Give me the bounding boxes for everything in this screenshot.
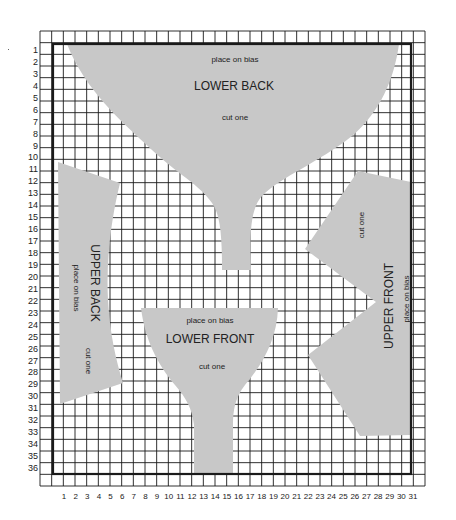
row-label: 15 — [22, 212, 38, 222]
column-label: 9 — [155, 492, 159, 501]
row-label: 19 — [22, 260, 38, 270]
row-label: 26 — [22, 344, 38, 354]
row-label: 7 — [22, 117, 38, 127]
column-label: 12 — [188, 492, 197, 501]
row-label: 9 — [22, 141, 38, 151]
column-label: 3 — [85, 492, 89, 501]
lower-back-title: LOWER BACK — [194, 79, 274, 93]
row-label: 36 — [22, 463, 38, 473]
column-label: 29 — [385, 492, 394, 501]
column-label: 20 — [281, 492, 290, 501]
row-label: 16 — [22, 224, 38, 234]
row-label: 24 — [22, 320, 38, 330]
column-label: 24 — [327, 492, 336, 501]
upper-back-cut-label: cut one — [84, 348, 93, 374]
row-label: 5 — [22, 93, 38, 103]
column-label: 28 — [374, 492, 383, 501]
upper-front-bias-label: place on bias — [402, 275, 411, 322]
column-label: 21 — [292, 492, 301, 501]
row-label: 32 — [22, 415, 38, 425]
column-label: 2 — [73, 492, 77, 501]
column-label: 19 — [269, 492, 278, 501]
row-label: 33 — [22, 427, 38, 437]
row-label: 4 — [22, 81, 38, 91]
row-label: 14 — [22, 200, 38, 210]
row-label: 35 — [22, 451, 38, 461]
column-label: 22 — [304, 492, 313, 501]
lower-front-cut-label: cut one — [199, 362, 225, 371]
row-label: 1 — [22, 45, 38, 55]
column-label: 18 — [257, 492, 266, 501]
row-label: 2 — [22, 57, 38, 67]
row-label: 6 — [22, 105, 38, 115]
row-label: 18 — [22, 248, 38, 258]
column-label: 26 — [350, 492, 359, 501]
row-label: 22 — [22, 296, 38, 306]
column-label: 11 — [176, 492, 184, 501]
lower-back-cut-label: cut one — [222, 113, 248, 122]
column-label: 4 — [97, 492, 101, 501]
column-label: 31 — [409, 492, 418, 501]
upper-back-title: UPPER BACK — [88, 244, 102, 321]
row-label: 21 — [22, 284, 38, 294]
upper-back-bias-label: place on bias — [72, 264, 81, 311]
column-label: 14 — [211, 492, 220, 501]
column-label: 7 — [132, 492, 136, 501]
column-label: 1 — [62, 492, 66, 501]
row-label: 13 — [22, 188, 38, 198]
row-label: 10 — [22, 152, 38, 162]
lower-front-bias-label: place on bias — [186, 316, 233, 325]
lower-back-bias-label: place on bias — [211, 55, 258, 64]
column-label: 23 — [315, 492, 324, 501]
column-label: 17 — [246, 492, 255, 501]
upper-front-title: UPPER FRONT — [382, 263, 396, 349]
row-label: 17 — [22, 236, 38, 246]
row-label: 29 — [22, 379, 38, 389]
pattern-grid-diagram — [0, 0, 456, 520]
upper-front-cut-label: cut one — [357, 212, 366, 238]
row-label: 25 — [22, 332, 38, 342]
row-label: 20 — [22, 272, 38, 282]
row-label: 23 — [22, 308, 38, 318]
column-label: 5 — [108, 492, 112, 501]
lower-front-title: LOWER FRONT — [166, 332, 255, 346]
row-label: 3 — [22, 69, 38, 79]
column-label: 27 — [362, 492, 371, 501]
row-label: 34 — [22, 439, 38, 449]
row-label: 27 — [22, 356, 38, 366]
column-label: 30 — [397, 492, 406, 501]
row-label: 31 — [22, 403, 38, 413]
column-label: 15 — [222, 492, 231, 501]
column-label: 13 — [199, 492, 208, 501]
row-label: 8 — [22, 129, 38, 139]
row-label: 12 — [22, 176, 38, 186]
row-label: 11 — [22, 164, 38, 174]
column-label: 16 — [234, 492, 243, 501]
column-label: 25 — [339, 492, 348, 501]
stray-mark — [8, 49, 9, 50]
column-label: 6 — [120, 492, 124, 501]
column-label: 10 — [164, 492, 173, 501]
row-label: 28 — [22, 367, 38, 377]
column-label: 8 — [143, 492, 147, 501]
row-label: 30 — [22, 391, 38, 401]
